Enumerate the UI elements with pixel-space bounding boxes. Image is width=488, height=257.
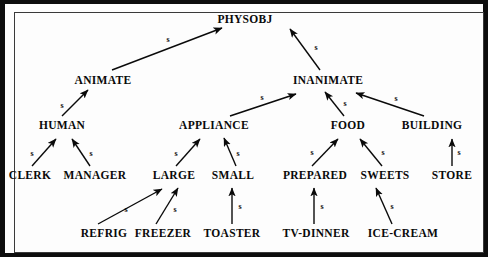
- edge-label-refrig-large: s: [124, 206, 127, 214]
- edge-label-tvdinner-prepared: s: [320, 203, 323, 211]
- isa-edge-sweets-food: [360, 139, 382, 166]
- node-manager: MANAGER: [64, 170, 127, 182]
- edge-label-store-building: s: [457, 149, 460, 157]
- edge-label-animate-physobj: s: [166, 36, 169, 44]
- edge-label-manager-human: s: [89, 150, 92, 158]
- edge-label-clerk-human: s: [30, 150, 33, 158]
- node-icecream: ICE-CREAM: [368, 228, 438, 240]
- isa-edge-food-inanimate: [325, 92, 344, 116]
- edge-label-inanimate-physobj: s: [314, 44, 317, 52]
- node-prepared: PREPARED: [283, 170, 347, 182]
- node-human: HUMAN: [39, 120, 85, 132]
- node-food: FOOD: [331, 120, 365, 132]
- edge-label-toaster-small: s: [238, 203, 241, 211]
- node-large: LARGE: [153, 170, 195, 182]
- node-refrig: REFRIG: [81, 228, 128, 240]
- edge-label-building-inanimate: s: [394, 95, 397, 103]
- isa-edge-building-inanimate: [356, 93, 424, 116]
- isa-edge-manager-human: [72, 139, 90, 166]
- isa-edge-small-appliance: [224, 138, 236, 166]
- isa-edge-large-appliance: [176, 139, 200, 166]
- node-small: SMALL: [212, 170, 254, 182]
- isa-edge-clerk-human: [32, 139, 56, 166]
- node-freezer: FREEZER: [135, 228, 191, 240]
- diagram-frame: PHYSOBJANIMATEINANIMATEHUMANAPPLIANCEFOO…: [0, 0, 488, 257]
- edge-label-appliance-inanimate: s: [260, 94, 263, 102]
- edge-label-prepared-food: s: [310, 149, 313, 157]
- edge-label-human-animate: s: [60, 102, 63, 110]
- isa-edge-refrig-large: [98, 189, 162, 224]
- edge-label-freezer-large: s: [173, 206, 176, 214]
- node-physobj: PHYSOBJ: [217, 14, 272, 26]
- node-tvdinner: TV-DINNER: [282, 228, 349, 240]
- isa-edge-prepared-food: [312, 139, 338, 166]
- edge-label-large-appliance: s: [174, 150, 177, 158]
- node-sweets: SWEETS: [360, 170, 409, 182]
- node-clerk: CLERK: [9, 170, 51, 182]
- node-appliance: APPLIANCE: [179, 120, 249, 132]
- node-inanimate: INANIMATE: [293, 75, 363, 87]
- edge-label-sweets-food: s: [381, 149, 384, 157]
- node-toaster: TOASTER: [204, 228, 261, 240]
- node-building: BUILDING: [402, 120, 463, 132]
- edge-label-food-inanimate: s: [343, 100, 346, 108]
- node-animate: ANIMATE: [75, 75, 132, 87]
- edge-label-small-appliance: s: [236, 150, 239, 158]
- node-store: STORE: [432, 170, 472, 182]
- edge-label-icecream-sweets: s: [390, 203, 393, 211]
- isa-edge-human-animate: [62, 90, 88, 116]
